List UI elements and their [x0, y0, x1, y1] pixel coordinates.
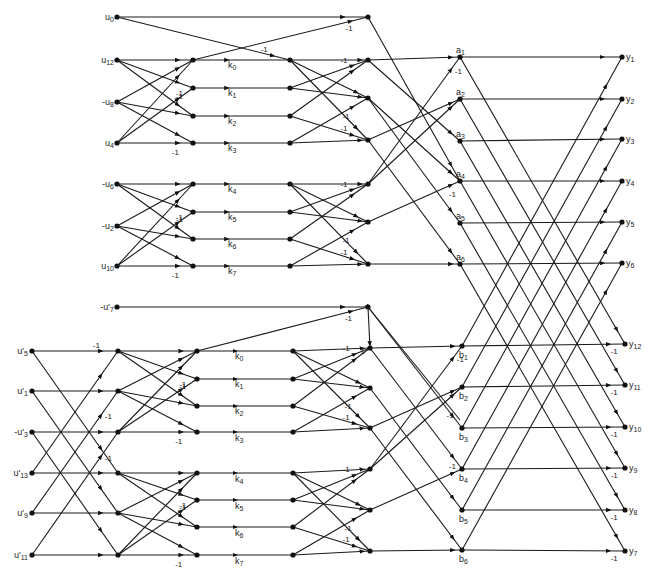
weight-label: -1 [343, 344, 351, 353]
edge [368, 307, 462, 428]
node [290, 429, 295, 434]
edge [368, 99, 460, 184]
node [114, 99, 119, 104]
node [194, 403, 199, 408]
node-label: k5 [228, 212, 237, 223]
node-label: b1 [459, 350, 468, 361]
weight-label: -1 [175, 437, 183, 446]
node-label: a2 [456, 87, 465, 98]
edge [118, 473, 197, 500]
node [190, 57, 195, 62]
weight-label: -1 [449, 462, 457, 471]
node [290, 497, 295, 502]
node-label: k2 [228, 116, 237, 127]
edge [290, 184, 368, 212]
node [287, 113, 292, 118]
node-label: y10 [629, 422, 641, 433]
edge [462, 263, 622, 550]
edge [193, 17, 368, 60]
node [115, 348, 120, 353]
node [365, 57, 370, 62]
node [290, 524, 295, 529]
weight-label: -1 [447, 411, 455, 420]
node [290, 376, 295, 381]
weight-label: -1 [455, 67, 463, 76]
edge [368, 307, 370, 348]
node [194, 497, 199, 502]
node [115, 470, 120, 475]
node-label: y5 [626, 217, 635, 228]
weight-label: -1 [179, 501, 187, 510]
nodes-layer [29, 14, 627, 557]
node-label: y11 [629, 380, 641, 391]
node-label: -u'7 [100, 302, 114, 313]
node [367, 507, 372, 512]
weight-label: -1 [611, 388, 619, 397]
weight-label: -1 [176, 89, 184, 98]
node [365, 181, 370, 186]
node-label: b3 [459, 432, 468, 443]
node [115, 429, 120, 434]
node [365, 137, 370, 142]
edge [368, 98, 460, 223]
node [367, 425, 372, 430]
edge [368, 181, 460, 222]
node [190, 263, 195, 268]
node-label: k7 [235, 556, 244, 567]
node-label: y8 [629, 505, 638, 516]
edge [118, 473, 197, 555]
labels-layer: u0u12-u8u4-u6-u2u10-u'7k0k1k2k3k4k5k6k7a… [13, 12, 641, 567]
node [194, 470, 199, 475]
node-label: -u'3 [14, 427, 28, 438]
weight-label: -1 [345, 524, 353, 533]
node [622, 548, 627, 553]
node [619, 178, 624, 183]
edge [370, 469, 462, 510]
edge [462, 181, 622, 469]
node [287, 57, 292, 62]
weight-label: -1 [611, 430, 619, 439]
edge [293, 379, 370, 388]
weight-label: -1 [105, 454, 113, 463]
node-label: u0 [105, 12, 114, 23]
edge [293, 551, 370, 555]
edge [118, 351, 197, 379]
node [290, 470, 295, 475]
node [194, 429, 199, 434]
weight-label: -1 [340, 248, 348, 257]
node [190, 140, 195, 145]
node [114, 304, 119, 309]
node-label: a4 [456, 169, 465, 180]
node-label: b6 [459, 554, 468, 565]
weight-label: -1 [105, 412, 113, 421]
node [287, 263, 292, 268]
node [459, 547, 464, 552]
edge [462, 550, 625, 551]
node [622, 507, 627, 512]
weight-label: -1 [343, 413, 351, 422]
node [619, 219, 624, 224]
edge [118, 513, 197, 527]
node [619, 96, 624, 101]
weight-label: -1 [172, 148, 180, 157]
node [194, 348, 199, 353]
node [190, 209, 195, 214]
edge [290, 212, 368, 222]
node-label: -u2 [102, 221, 114, 232]
edge [368, 98, 460, 181]
edge [290, 264, 368, 266]
node [194, 376, 199, 381]
node-label: u'9 [17, 508, 28, 519]
weight-label: -1 [346, 24, 354, 33]
edge [118, 391, 197, 406]
node [287, 181, 292, 186]
weight-label: -1 [611, 554, 619, 563]
node-label: k5 [235, 501, 244, 512]
node [365, 261, 370, 266]
weight-label: -1 [175, 560, 183, 569]
node [622, 341, 627, 346]
node-label: k7 [228, 266, 237, 277]
node [287, 85, 292, 90]
node-label: y4 [626, 176, 635, 187]
node-label: k4 [235, 474, 244, 485]
